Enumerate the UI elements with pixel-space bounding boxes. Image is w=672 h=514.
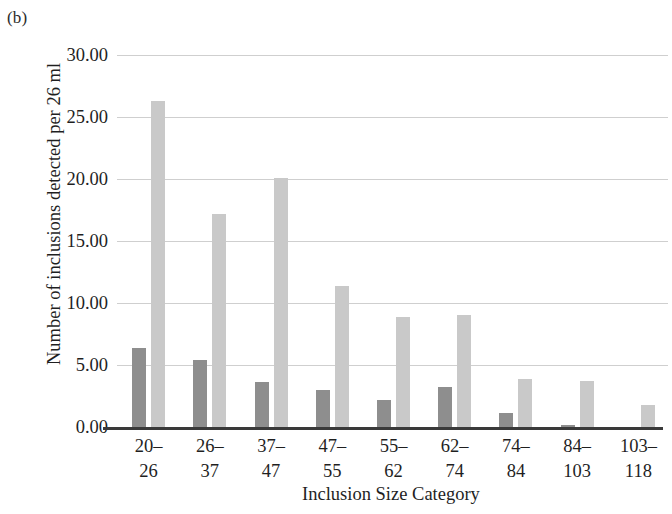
panel-label: (b)	[7, 8, 27, 28]
x-tick-label-line: 37–	[257, 434, 285, 459]
bar-dark-26–37	[193, 360, 207, 427]
x-tick-label-20–26: 20–26	[135, 434, 163, 484]
x-tick-label-line: 84	[502, 459, 530, 484]
x-tick-label-line: 55	[318, 459, 346, 484]
x-tick-label-line: 103	[563, 459, 591, 484]
gridline	[117, 303, 668, 304]
x-tick-label-55–62: 55–62	[380, 434, 408, 484]
x-tick-label-line: 37	[196, 459, 224, 484]
y-tick-label: 30.00	[66, 45, 108, 65]
x-tick-label-37–47: 37–47	[257, 434, 285, 484]
x-axis-line	[103, 427, 663, 430]
x-tick-label-line: 74–	[502, 434, 530, 459]
y-axis-title: Number of inclusions detected per 26 ml	[43, 19, 65, 409]
x-tick-label-line: 55–	[380, 434, 408, 459]
gridline	[117, 117, 668, 118]
x-tick-label-line: 118	[620, 459, 657, 484]
y-tick-label: 15.00	[66, 231, 108, 251]
x-axis-title: Inclusion Size Category	[110, 483, 672, 505]
y-tick-label: 25.00	[66, 107, 108, 127]
x-tick-label-line: 26–	[196, 434, 224, 459]
bar-light-47–55	[335, 286, 349, 427]
bar-dark-62–74	[438, 387, 452, 427]
gridline	[117, 241, 668, 242]
bar-light-103–118	[641, 405, 655, 427]
x-tick-label-26–37: 26–37	[196, 434, 224, 484]
bar-dark-47–55	[316, 390, 330, 427]
y-tick-label: 20.00	[66, 169, 108, 189]
gridline	[117, 179, 668, 180]
x-tick-label-74–84: 74–84	[502, 434, 530, 484]
bar-light-84–103	[580, 381, 594, 427]
bar-light-55–62	[396, 317, 410, 427]
x-tick-label-line: 62–	[441, 434, 469, 459]
bar-light-26–37	[212, 214, 226, 427]
gridline	[117, 55, 668, 56]
bar-dark-74–84	[499, 413, 513, 427]
x-tick-label-47–55: 47–55	[318, 434, 346, 484]
x-tick-label-line: 47–	[318, 434, 346, 459]
y-tick-label: 10.00	[66, 293, 108, 313]
bar-light-62–74	[457, 315, 471, 427]
x-tick-label-line: 74	[441, 459, 469, 484]
bar-dark-55–62	[377, 400, 391, 427]
x-tick-label-line: 47	[257, 459, 285, 484]
x-tick-label-84–103: 84–103	[563, 434, 591, 484]
x-tick-label-line: 103–	[620, 434, 657, 459]
x-tick-label-line: 26	[135, 459, 163, 484]
x-tick-label-62–74: 62–74	[441, 434, 469, 484]
bar-light-20–26	[151, 101, 165, 427]
x-tick-label-line: 20–	[135, 434, 163, 459]
y-tick-label: 5.00	[76, 355, 108, 375]
plot-area: 0.005.0010.0015.0020.0025.0030.00 20–262…	[117, 55, 668, 427]
x-tick-label-103–118: 103–118	[620, 434, 657, 484]
bar-light-37–47	[274, 178, 288, 427]
bar-dark-37–47	[255, 382, 269, 427]
x-tick-label-line: 84–	[563, 434, 591, 459]
bar-dark-20–26	[132, 348, 146, 427]
bar-light-74–84	[518, 379, 532, 427]
figure-panel-b: (b) Number of inclusions detected per 26…	[0, 0, 672, 514]
x-tick-label-line: 62	[380, 459, 408, 484]
